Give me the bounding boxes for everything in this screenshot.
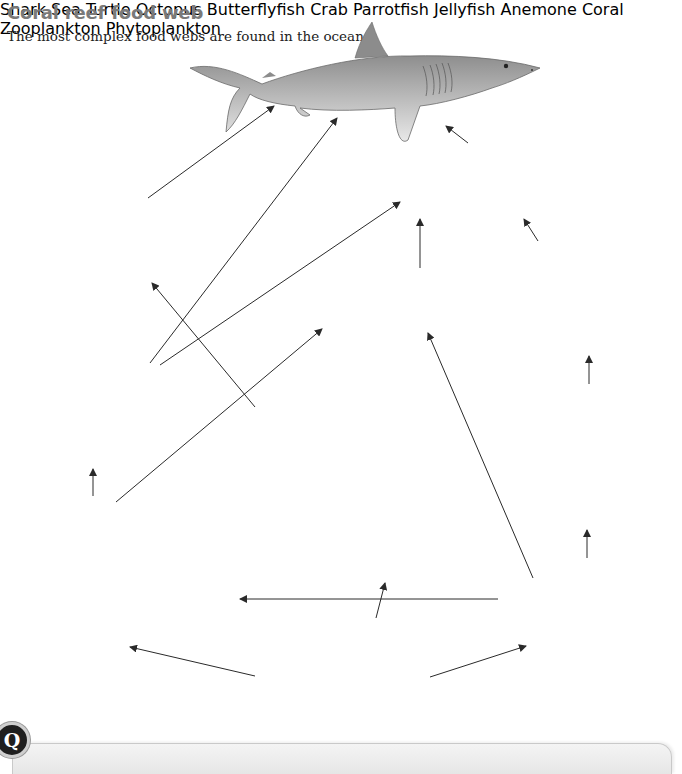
- shark-illustration: [190, 22, 540, 141]
- question-box: [12, 743, 672, 774]
- food-web-arrows: [93, 106, 589, 677]
